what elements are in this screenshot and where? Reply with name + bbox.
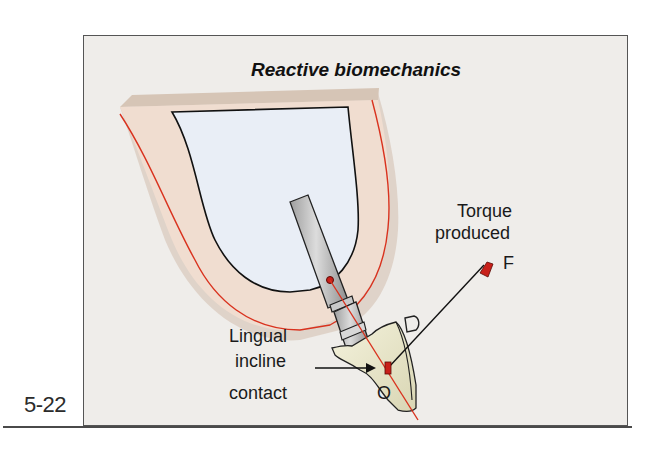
lingual-label-line2: incline [235, 350, 286, 372]
force-point-label: F [503, 252, 514, 274]
figure-number: 5-22 [24, 392, 66, 418]
origin-point-label: O [377, 382, 391, 404]
lingual-label-line3: contact [229, 382, 287, 404]
distal-marker-d [405, 316, 419, 332]
figure-title: Reactive biomechanics [83, 59, 629, 81]
figure-baseline-rule [3, 426, 632, 428]
force-arrowhead [480, 262, 493, 277]
force-vector-line [388, 265, 484, 368]
torque-label-line2: produced [435, 222, 510, 244]
contact-point-marker [385, 362, 391, 374]
lingual-label-line1: Lingual [229, 325, 287, 347]
torque-label-line1: Torque [457, 200, 512, 222]
